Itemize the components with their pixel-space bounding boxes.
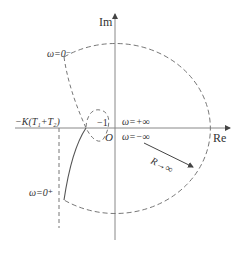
radius-label: R→∞: [148, 154, 175, 175]
negative-frequency-branch: [64, 57, 109, 141]
origin-label: O: [105, 131, 113, 143]
re-axis-label: Re: [213, 131, 226, 145]
positive-frequency-branch: [64, 128, 86, 200]
neg-one-label: −1: [97, 117, 108, 128]
omega-zero-minus-label: ω=0⁻: [47, 48, 71, 59]
omega-zero-plus-label: ω=0⁺: [29, 187, 53, 198]
asymptote-label: −K(T₁+T₂): [15, 116, 61, 128]
omega-plus-inf-label: ω=+∞: [122, 116, 150, 127]
omega-minus-inf-label: ω=−∞: [122, 131, 150, 142]
im-axis-label: Im: [99, 15, 113, 29]
nyquist-diagram: Im Re O ω=0⁻ ω=0⁺ ω=+∞ ω=−∞ −1 −K(T₁+T₂)…: [0, 0, 237, 256]
